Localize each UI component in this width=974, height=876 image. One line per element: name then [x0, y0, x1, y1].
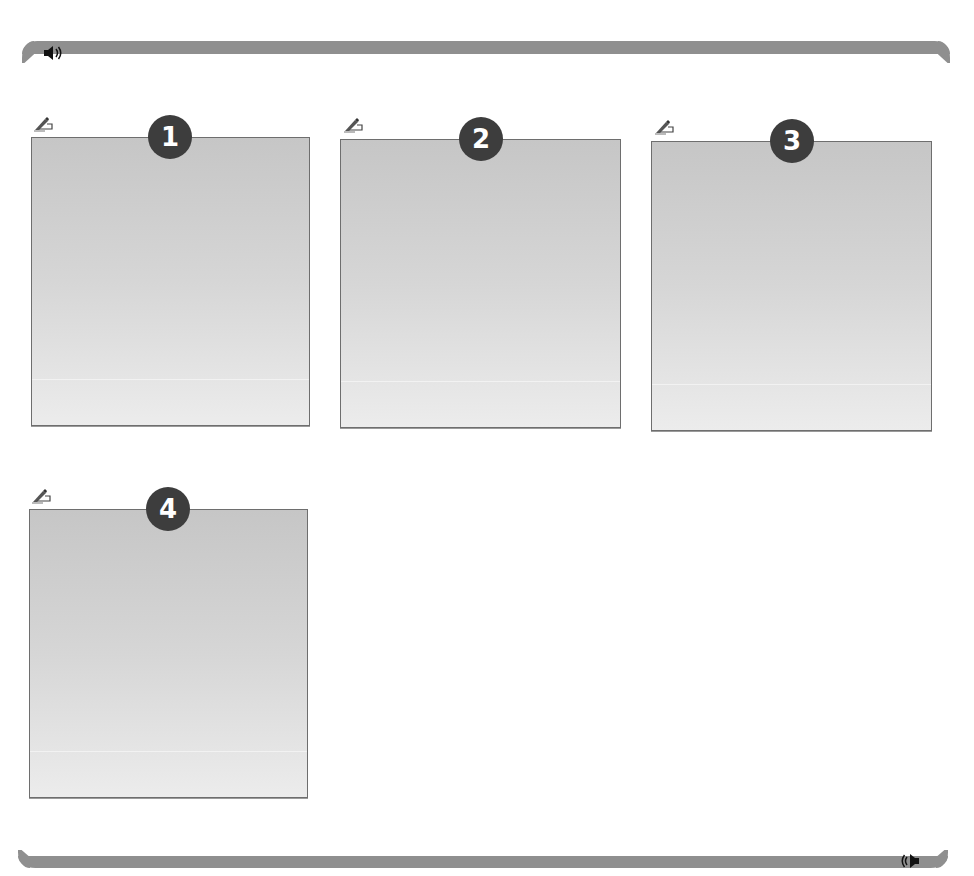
writing-area[interactable]	[31, 137, 310, 426]
writing-area[interactable]	[651, 141, 932, 431]
top-bar	[22, 41, 950, 54]
speaker-icon[interactable]	[900, 853, 920, 869]
speaker-icon[interactable]	[43, 45, 63, 61]
writing-area[interactable]	[29, 509, 308, 798]
pencil-hand-icon[interactable]	[343, 117, 365, 133]
card-number-badge: 3	[770, 119, 814, 163]
writing-area[interactable]	[340, 139, 621, 428]
card-number-badge: 2	[459, 117, 503, 161]
bottom-bar	[18, 856, 948, 868]
pencil-hand-icon[interactable]	[31, 488, 53, 504]
card-number-badge: 1	[148, 115, 192, 159]
pencil-hand-icon[interactable]	[654, 119, 676, 135]
pencil-hand-icon[interactable]	[33, 116, 55, 132]
card-number-badge: 4	[146, 487, 190, 531]
